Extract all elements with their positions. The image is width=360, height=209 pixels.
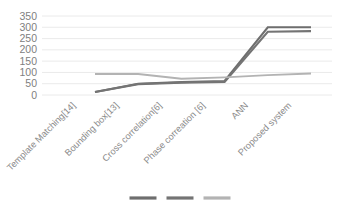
y-axis-tick-label: 150	[19, 55, 37, 67]
y-axis-tick-label: 350	[19, 10, 37, 22]
y-axis-tick-label: 200	[19, 43, 37, 55]
series-line-2	[95, 31, 311, 92]
y-axis-tick-label: 100	[19, 66, 37, 78]
y-axis-tick-label: 50	[25, 77, 37, 89]
chart-canvas: 050100150200250300350 Template Matching[…	[0, 0, 360, 209]
x-axis-category-label: Template Matching[14]	[5, 100, 77, 172]
line-chart: 050100150200250300350 Template Matching[…	[0, 0, 360, 209]
series-line-3	[95, 74, 311, 79]
x-axis-category-label: ANN	[229, 100, 250, 121]
y-axis-tick-label: 300	[19, 21, 37, 33]
series-lines	[95, 27, 311, 92]
y-axis-tick-label: 0	[31, 89, 37, 101]
y-axis-tick-label: 250	[19, 32, 37, 44]
x-axis-category-labels: Template Matching[14]Bounding box[13]Cro…	[5, 100, 294, 173]
y-axis-tick-labels: 050100150200250300350	[19, 10, 37, 101]
